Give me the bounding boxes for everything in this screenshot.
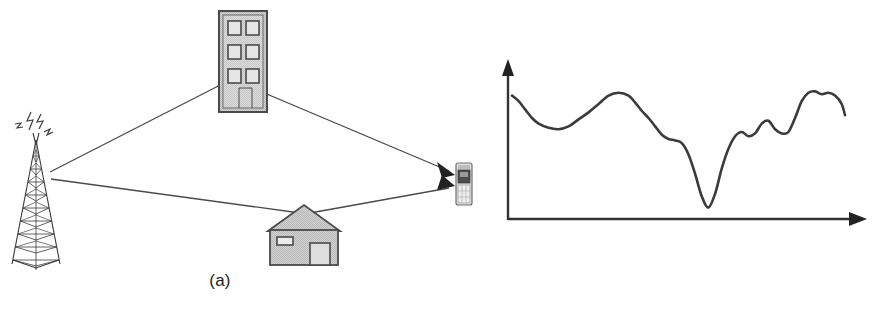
ray-house-to-phone bbox=[310, 188, 449, 213]
house-door bbox=[310, 243, 330, 265]
y-axis-arrowhead bbox=[502, 59, 514, 76]
house-window bbox=[277, 237, 293, 245]
multipath-scene-svg bbox=[0, 0, 500, 316]
panel-a-multipath-diagram: (a) bbox=[0, 0, 500, 316]
x-axis-arrowhead bbox=[849, 212, 867, 226]
tower-outline-left bbox=[12, 140, 36, 264]
ray-building-to-phone bbox=[243, 84, 449, 171]
building-window bbox=[228, 69, 241, 83]
ray-tower-to-building bbox=[50, 79, 232, 172]
fading-response-curve bbox=[512, 91, 845, 207]
building-window bbox=[228, 21, 241, 35]
ray-tower-to-house bbox=[51, 179, 300, 213]
tower-outline-right bbox=[36, 140, 60, 264]
house bbox=[268, 205, 340, 265]
building-window bbox=[246, 21, 259, 35]
cell-tower bbox=[12, 112, 60, 270]
office-building bbox=[219, 11, 267, 112]
building-window bbox=[246, 69, 259, 83]
frequency-response-chart-svg bbox=[440, 0, 882, 316]
building-window bbox=[246, 45, 259, 59]
panel-b-fading-chart: Frequency (b) bbox=[440, 0, 882, 316]
figure-root: (a) Frequency (b) bbox=[0, 0, 882, 316]
antenna-spark-icon bbox=[15, 112, 53, 135]
building-window bbox=[228, 45, 241, 59]
caption-a: (a) bbox=[0, 271, 440, 291]
